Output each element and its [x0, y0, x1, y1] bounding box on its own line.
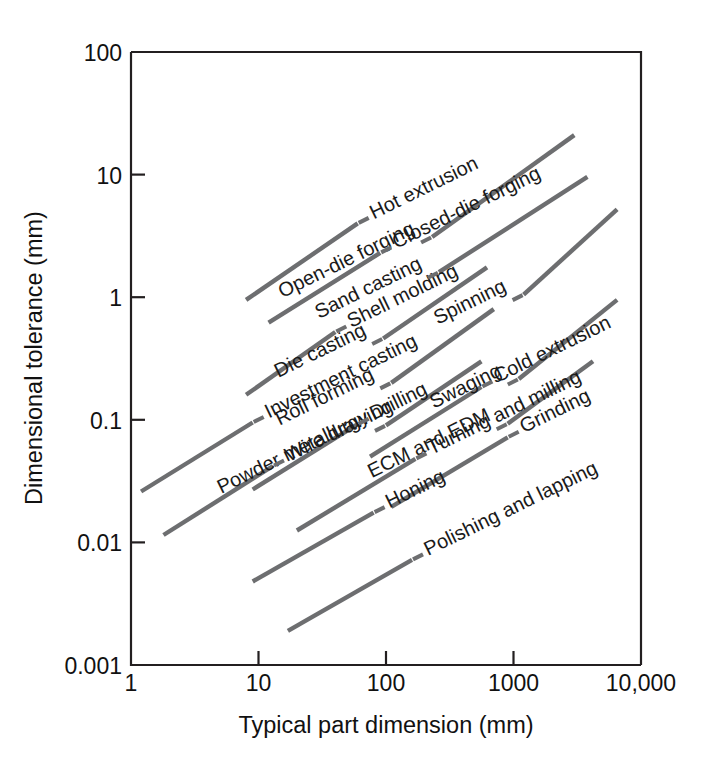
y-axis-ticks — [131, 175, 145, 543]
y-tick-label-0-1: 0.1 — [90, 408, 122, 434]
y-tick-label-0-01: 0.01 — [77, 530, 122, 556]
y-tick-label-1: 1 — [109, 285, 122, 311]
label-leader-dash — [375, 507, 385, 512]
y-tick-label-10: 10 — [96, 163, 122, 189]
tolerance-vs-dimension-chart: 100 10 1 0.1 0.01 0.001 1 10 100 1000 10… — [0, 0, 711, 767]
chart-figure: 100 10 1 0.1 0.01 0.001 1 10 100 1000 10… — [0, 0, 711, 767]
y-axis-title: Dimensional tolerance (mm) — [21, 211, 47, 505]
label-leader-dash — [380, 383, 390, 388]
x-tick-label-1000: 1000 — [488, 670, 539, 696]
label-leader-dash — [513, 295, 523, 300]
x-tick-label-10: 10 — [246, 670, 272, 696]
label-leader-dash — [413, 554, 423, 559]
x-tick-labels: 1 10 100 1000 10,000 — [125, 670, 677, 696]
data-band-labels: Hot extrusionOpen-die forgingClosed-die … — [213, 152, 614, 560]
x-axis-title: Typical part dimension (mm) — [238, 712, 533, 738]
label-leader-dash — [359, 218, 369, 223]
x-tick-label-100: 100 — [367, 670, 405, 696]
label-leader-dash — [254, 417, 264, 422]
y-tick-label-0-001: 0.001 — [64, 653, 122, 679]
process-band — [288, 560, 412, 631]
x-tick-label-1: 1 — [125, 670, 138, 696]
y-tick-label-100: 100 — [84, 40, 122, 66]
label-leader-dash — [375, 426, 385, 431]
process-band — [524, 209, 618, 294]
y-tick-labels: 100 10 1 0.1 0.01 0.001 — [64, 40, 122, 679]
label-leader-dash — [509, 432, 519, 437]
x-tick-label-10000: 10,000 — [606, 670, 676, 696]
x-axis-ticks — [259, 651, 514, 665]
